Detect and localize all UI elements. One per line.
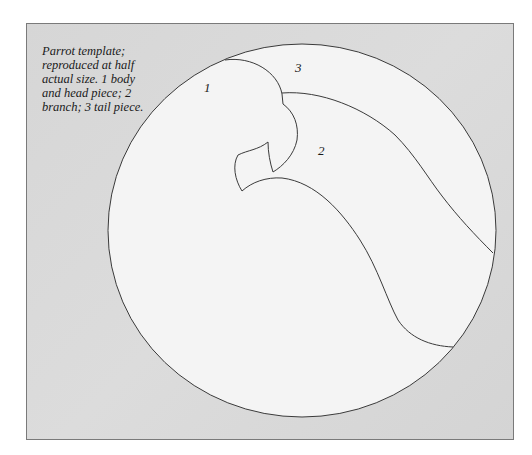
label-body-piece: 1 — [204, 80, 211, 96]
template-caption: Parrot template; reproduced at half actu… — [42, 44, 152, 114]
label-tail-piece: 3 — [295, 60, 302, 76]
label-branch-piece: 2 — [318, 143, 325, 159]
template-circle — [108, 44, 496, 417]
caption-line: Parrot template; — [42, 44, 152, 58]
caption-line: actual size. 1 body — [42, 72, 152, 86]
caption-line: branch; 3 tail piece. — [42, 100, 152, 114]
caption-line: reproduced at half — [42, 58, 152, 72]
caption-line: and head piece; 2 — [42, 86, 152, 100]
